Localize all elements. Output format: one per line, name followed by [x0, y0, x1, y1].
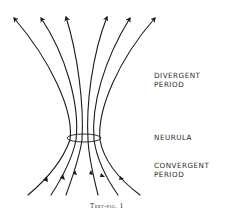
- divergent-period-label: DIVERGENT PERIOD: [154, 72, 201, 89]
- flow-line-2: [41, 18, 77, 195]
- convergent-period-label: CONVERGENT PERIOD: [154, 162, 209, 179]
- flow-line-1: [14, 18, 70, 195]
- flow-line-6: [100, 18, 155, 195]
- flow-line-5: [94, 18, 130, 195]
- neurula-ring: [67, 134, 101, 142]
- figure-caption: Text-fig. 1: [0, 202, 214, 210]
- figure-diagram: DIVERGENT PERIOD NEURULA CONVERGENT PERI…: [0, 0, 226, 223]
- neurula-label: NEURULA: [154, 134, 192, 143]
- mid-arrow-icon: [100, 173, 105, 177]
- flow-lines-diagram: [0, 0, 226, 223]
- convergent-arrowheads: [43, 170, 124, 182]
- flow-line-3: [66, 17, 82, 195]
